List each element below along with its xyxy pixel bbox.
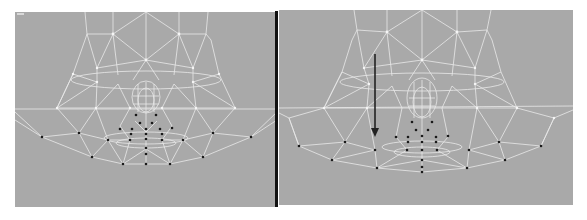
- wireframe-mesh-right[interactable]: [279, 10, 573, 205]
- viewport-divider[interactable]: [275, 11, 278, 207]
- viewport-left[interactable]: [15, 12, 277, 207]
- wireframe-mesh-left[interactable]: [15, 12, 277, 207]
- viewport-right[interactable]: [279, 10, 573, 205]
- selected-vertices: [41, 114, 253, 166]
